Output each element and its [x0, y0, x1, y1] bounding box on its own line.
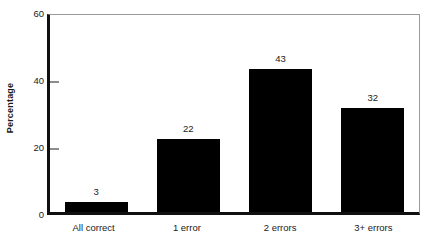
bar-value-all-correct: 3: [93, 187, 98, 197]
x-axis-tick-labels: All correct 1 error 2 errors 3+ errors: [47, 222, 420, 233]
bar-series: 3 22 43 32: [50, 15, 419, 212]
bar-slot-3plus-errors: 32: [327, 15, 419, 212]
bar-all-correct[interactable]: 3: [65, 202, 128, 212]
bar-slot-1-error: 22: [142, 15, 234, 212]
plot-area: 3 22 43 32: [47, 14, 420, 215]
y-tick-label-40: 40: [4, 76, 44, 86]
y-tick-label-60: 60: [4, 9, 44, 19]
x-tick-label-1-error: 1 error: [140, 222, 233, 233]
y-axis-tick-labels: 60 40 20 0: [0, 0, 44, 247]
bar-slot-all-correct: 3: [50, 15, 142, 212]
x-tick-label-3plus-errors: 3+ errors: [327, 222, 420, 233]
x-tick-label-all-correct: All correct: [47, 222, 140, 233]
bar-slot-2-errors: 43: [235, 15, 327, 212]
x-tick-label-2-errors: 2 errors: [234, 222, 327, 233]
bar-value-3plus-errors: 32: [368, 93, 379, 103]
bar-value-1-error: 22: [183, 124, 194, 134]
bar-1-error[interactable]: 22: [157, 139, 220, 213]
bar-value-2-errors: 43: [275, 54, 286, 64]
y-tick-label-0: 0: [4, 210, 44, 220]
bar-3plus-errors[interactable]: 32: [341, 108, 404, 212]
y-tick-label-20: 20: [4, 143, 44, 153]
bar-2-errors[interactable]: 43: [249, 69, 312, 213]
bar-chart-figure: Percentage 60 40 20 0 3 22 43: [0, 0, 431, 247]
